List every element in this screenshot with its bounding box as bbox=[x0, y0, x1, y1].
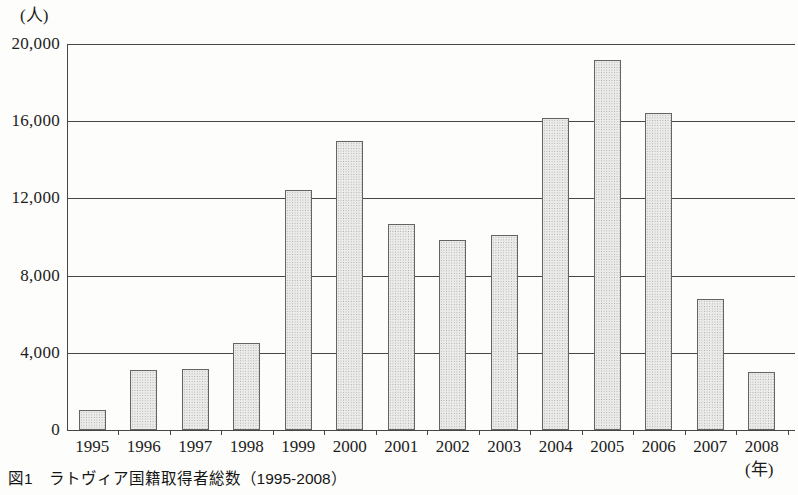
y-axis-tick-label: 4,000 bbox=[0, 344, 60, 362]
x-axis-label-2000: 2000 bbox=[324, 438, 376, 456]
bar-2002 bbox=[439, 240, 466, 430]
y-axis-line bbox=[67, 44, 68, 430]
x-axis-tick bbox=[788, 431, 789, 435]
x-axis-tick bbox=[324, 431, 325, 435]
bar-2003 bbox=[491, 235, 518, 430]
bar-1998 bbox=[233, 343, 260, 430]
gridline-0 bbox=[67, 430, 796, 431]
x-axis-label-1995: 1995 bbox=[67, 438, 119, 456]
x-axis-label-2006: 2006 bbox=[633, 438, 685, 456]
x-axis-tick bbox=[479, 431, 480, 435]
gridline-20000 bbox=[67, 44, 796, 45]
x-axis-tick bbox=[273, 431, 274, 435]
x-axis-label-2005: 2005 bbox=[582, 438, 634, 456]
x-axis-label-1999: 1999 bbox=[273, 438, 325, 456]
bar-2005 bbox=[594, 60, 621, 430]
x-axis-tick bbox=[118, 431, 119, 435]
y-axis-tick-label: 12,000 bbox=[0, 189, 60, 207]
x-axis-tick bbox=[530, 431, 531, 435]
x-axis-tick bbox=[170, 431, 171, 435]
bar-1996 bbox=[130, 370, 157, 430]
x-axis-label-2007: 2007 bbox=[685, 438, 737, 456]
x-axis-tick bbox=[221, 431, 222, 435]
bar-2001 bbox=[388, 224, 415, 430]
bar-2000 bbox=[336, 141, 363, 430]
x-axis-tick bbox=[427, 431, 428, 435]
bar-chart: 04,0008,00012,00016,00020,00019951996199… bbox=[0, 0, 798, 495]
x-axis-label-1996: 1996 bbox=[118, 438, 170, 456]
bar-1999 bbox=[285, 190, 312, 430]
x-axis-label-2003: 2003 bbox=[479, 438, 531, 456]
x-axis-tick bbox=[582, 431, 583, 435]
bar-1995 bbox=[79, 410, 106, 430]
x-axis-tick bbox=[633, 431, 634, 435]
bar-1997 bbox=[182, 369, 209, 430]
x-axis-tick bbox=[736, 431, 737, 435]
bar-2004 bbox=[542, 118, 569, 430]
gridline-16000 bbox=[67, 121, 796, 122]
x-axis-tick bbox=[376, 431, 377, 435]
gridline-8000 bbox=[67, 276, 796, 277]
y-axis-tick-label: 0 bbox=[0, 421, 60, 439]
x-axis-label-2004: 2004 bbox=[530, 438, 582, 456]
x-axis-label-2001: 2001 bbox=[376, 438, 428, 456]
bar-2008 bbox=[748, 372, 775, 430]
gridline-12000 bbox=[67, 198, 796, 199]
x-axis-label-1997: 1997 bbox=[170, 438, 222, 456]
x-axis-unit-label: (年) bbox=[745, 461, 773, 479]
x-axis-label-2008: 2008 bbox=[736, 438, 788, 456]
x-axis-tick bbox=[685, 431, 686, 435]
y-axis-tick-label: 8,000 bbox=[0, 267, 60, 285]
bar-2007 bbox=[697, 299, 724, 430]
gridline-4000 bbox=[67, 353, 796, 354]
x-axis-label-1998: 1998 bbox=[221, 438, 273, 456]
figure: (人) 04,0008,00012,00016,00020,0001995199… bbox=[0, 0, 798, 495]
y-axis-tick-label: 20,000 bbox=[0, 35, 60, 53]
x-axis-label-2002: 2002 bbox=[427, 438, 479, 456]
figure-caption: 図1 ラトヴィア国籍取得者総数（1995-2008） bbox=[8, 469, 347, 489]
bar-2006 bbox=[645, 113, 672, 430]
y-axis-tick-label: 16,000 bbox=[0, 112, 60, 130]
